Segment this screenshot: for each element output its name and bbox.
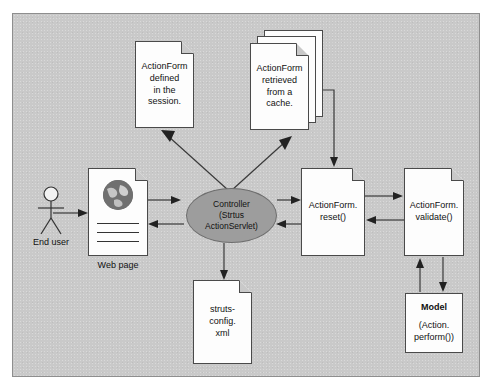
struts-flow-diagram: End user Web page ActionForm defined in … <box>0 0 494 390</box>
web-page-node <box>88 168 148 256</box>
struts-config-node: struts-config. xml <box>193 280 252 364</box>
action-form-reset-line2: reset() <box>309 212 358 224</box>
action-form-validate-node: ActionForm. validate() <box>404 168 464 256</box>
model-line2: perform()) <box>414 332 454 344</box>
action-form-session-line4: session. <box>141 96 187 108</box>
model-line1: (Action. <box>414 320 454 332</box>
struts-config-line1: struts-config. <box>198 304 247 328</box>
controller-node: Controller (Strtus ActionServlet) <box>186 188 277 243</box>
action-form-cache-line2: retrieved <box>256 75 302 87</box>
action-form-session-line2: defined <box>141 73 187 85</box>
web-page-line <box>97 232 139 233</box>
action-form-reset-line1: ActionForm. <box>309 200 358 212</box>
action-form-validate-line1: ActionForm. <box>410 200 459 212</box>
action-form-cache-line1: ActionForm <box>256 63 302 75</box>
model-node: Model (Action. perform()) <box>405 293 463 353</box>
action-form-cache-line4: cache. <box>256 98 302 110</box>
action-form-session-line3: in the <box>141 85 187 97</box>
controller-line2: (Strtus <box>205 210 258 221</box>
web-page-line <box>97 223 139 224</box>
struts-config-line2: xml <box>198 328 247 340</box>
action-form-validate-line2: validate() <box>410 212 459 224</box>
web-page-label: Web page <box>80 260 156 270</box>
action-form-session-node: ActionForm defined in the session. <box>135 41 194 128</box>
model-title: Model <box>421 302 447 314</box>
controller-line3: ActionServlet) <box>205 221 258 232</box>
action-form-session-line1: ActionForm <box>141 61 187 73</box>
controller-line1: Controller <box>205 199 258 210</box>
end-user-label: End user <box>22 237 80 247</box>
action-form-cache-line3: from a <box>256 87 302 99</box>
action-form-cache-stack: ActionForm retrieved from a cache. <box>250 30 324 130</box>
action-form-reset-node: ActionForm. reset() <box>301 168 365 256</box>
stick-figure-icon <box>33 186 69 236</box>
globe-icon <box>103 180 133 210</box>
action-form-cache-node: ActionForm retrieved from a cache. <box>250 43 309 130</box>
web-page-line <box>97 241 139 242</box>
